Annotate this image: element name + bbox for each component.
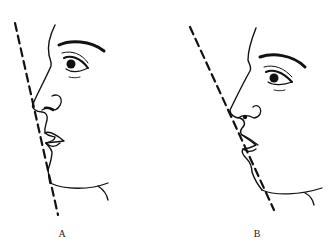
- panel-b-reference-line: [190, 27, 274, 210]
- panel-a-eyebrow: [59, 42, 104, 51]
- panel-a-neck: [98, 186, 108, 200]
- panel-a-nostril-fill: [45, 108, 53, 110]
- panel-b-jaw: [262, 188, 322, 194]
- panel-b-eye-lower: [268, 82, 292, 85]
- panel-a-lower-lash: [69, 77, 80, 78]
- panel-b-face: [190, 27, 322, 210]
- panel-b-nostril-fill: [243, 115, 247, 119]
- diagram-canvas: [0, 0, 336, 248]
- panel-b-lower-lash: [274, 90, 285, 91]
- panel-a-reference-line: [15, 23, 58, 215]
- panel-b-nostril: [238, 106, 261, 118]
- panel-b-eyebrow: [260, 55, 305, 67]
- panel-a-pupil: [67, 60, 76, 69]
- profile-diagram: A B: [0, 0, 336, 248]
- panel-b-neck: [305, 193, 314, 205]
- panel-a-profile-outline: [33, 25, 55, 183]
- panel-a-eye-lower: [66, 68, 88, 72]
- panel-b-pupil: [270, 74, 279, 83]
- panel-a-label: A: [58, 228, 65, 239]
- panel-b-profile-outline: [230, 28, 262, 190]
- panel-b-label: B: [254, 228, 261, 239]
- panel-a-face: [15, 23, 108, 215]
